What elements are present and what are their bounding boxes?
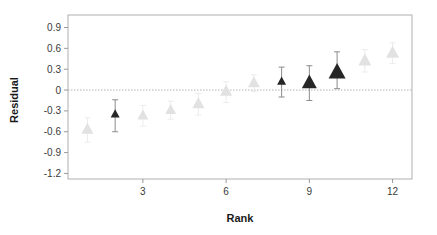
y-tick-label: -0.6 bbox=[44, 126, 62, 137]
y-tick-label: 0.9 bbox=[47, 22, 61, 33]
y-tick-label: 0.3 bbox=[47, 64, 61, 75]
y-axis-title: Residual bbox=[8, 77, 20, 123]
y-tick-label: 0.6 bbox=[47, 43, 61, 54]
y-tick-label: -0.9 bbox=[44, 147, 62, 158]
figure-background bbox=[0, 0, 437, 235]
x-tick-label: 9 bbox=[307, 186, 313, 197]
y-tick-label: -1.2 bbox=[44, 168, 62, 179]
chart-figure: 0.90.60.30-0.3-0.6-0.9-1.2 36912 Residua… bbox=[0, 0, 437, 235]
y-tick-label: 0 bbox=[55, 85, 61, 96]
x-tick-label: 3 bbox=[140, 186, 146, 197]
x-axis-title: Rank bbox=[227, 212, 255, 224]
x-tick-label: 12 bbox=[387, 186, 399, 197]
y-tick-label: -0.3 bbox=[44, 105, 62, 116]
x-tick-label: 6 bbox=[223, 186, 229, 197]
residual-rank-scatter-plot: 0.90.60.30-0.3-0.6-0.9-1.2 36912 Residua… bbox=[0, 0, 437, 235]
